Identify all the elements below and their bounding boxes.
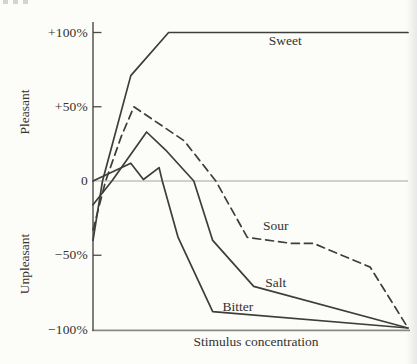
x-axis-label: Stimulus concentration — [194, 334, 319, 350]
ytick-zero: 0 — [81, 173, 88, 189]
taste-hedonics-figure: +100% +50% 0 −50% −100% Pleasant Unpleas… — [0, 0, 417, 364]
ytick-plus-100: +100% — [48, 25, 88, 41]
sweet-curve-label: Sweet — [269, 33, 302, 49]
salt-curve-label: Salt — [265, 275, 286, 291]
chart-canvas — [0, 0, 417, 364]
ytick-minus-100: −100% — [48, 322, 88, 338]
ytick-plus-50: +50% — [55, 99, 88, 115]
ytick-minus-50: −50% — [55, 247, 88, 263]
bitter-curve-label: Bitter — [223, 299, 254, 315]
y-axis-pleasant-label: Pleasant — [17, 90, 33, 135]
curves-group — [93, 33, 408, 329]
sweet-curve — [93, 33, 408, 241]
y-axis-unpleasant-label: Unpleasant — [17, 234, 33, 295]
sour-curve-label: Sour — [263, 218, 289, 234]
